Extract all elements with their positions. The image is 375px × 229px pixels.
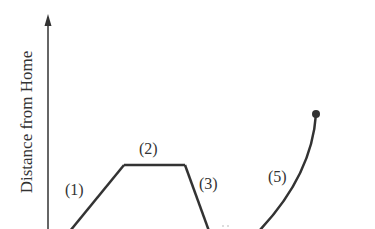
distance-graph — [0, 0, 375, 229]
y-axis-label: Distance from Home — [17, 51, 37, 194]
segment-5-label: (5) — [268, 168, 287, 186]
endpoint-dot — [312, 110, 320, 118]
segment-1-label: (1) — [65, 181, 84, 199]
y-axis-arrow-icon — [45, 14, 52, 26]
segment-2-label: (2) — [139, 140, 158, 158]
segment-3-label: (3) — [199, 175, 218, 193]
